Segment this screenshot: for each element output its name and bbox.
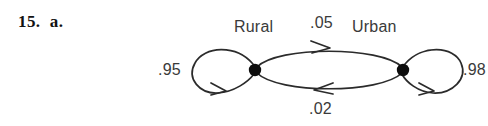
- node-rural-label: Rural: [234, 19, 273, 35]
- edge-urban-self-path: [402, 50, 463, 93]
- edge-weight-rural-self: .95: [158, 62, 181, 78]
- edge-weight-urban-rural: .02: [309, 101, 332, 117]
- edge-weight-rural-urban: .05: [310, 15, 333, 31]
- node-rural-dot: [249, 64, 261, 76]
- figure-root: 15. a. Rural Urban .95 .05 .02 .98: [0, 0, 488, 126]
- edge-weight-urban-self: .98: [463, 62, 486, 78]
- node-urban-label: Urban: [352, 19, 397, 35]
- node-urban-dot: [397, 64, 409, 76]
- edge-rural-urban: [257, 41, 402, 67]
- edge-urban-rural: [257, 73, 402, 94]
- edge-urban-self: [402, 50, 463, 95]
- edge-urban-rural-path: [257, 73, 402, 89]
- edge-rural-urban-path: [257, 51, 402, 67]
- edge-rural-self: [192, 50, 254, 95]
- edge-rural-self-path: [192, 50, 254, 93]
